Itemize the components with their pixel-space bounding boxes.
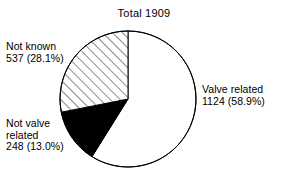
chart-title: Total 1909 — [0, 7, 288, 20]
pie-label-not-valve-related-name-1: Not valve — [6, 118, 64, 130]
pie-label-not-valve-related: Not valve related 248 (13.0%) — [6, 118, 64, 153]
pie-label-not-known: Not known 537 (28.1%) — [6, 41, 64, 64]
pie-chart-figure: Total 1909 Not known 537 (28.1%) Not val… — [0, 0, 288, 182]
pie-label-not-known-name: Not known — [6, 41, 64, 53]
pie-label-valve-related-value: 1124 (58.9%) — [202, 96, 265, 108]
pie-label-not-valve-related-value: 248 (13.0%) — [6, 141, 64, 153]
pie-label-valve-related: Valve related 1124 (58.9%) — [202, 84, 265, 107]
pie-label-not-known-value: 537 (28.1%) — [6, 53, 64, 65]
pie-label-valve-related-name: Valve related — [202, 84, 265, 96]
pie-slice-not-known — [60, 31, 128, 112]
